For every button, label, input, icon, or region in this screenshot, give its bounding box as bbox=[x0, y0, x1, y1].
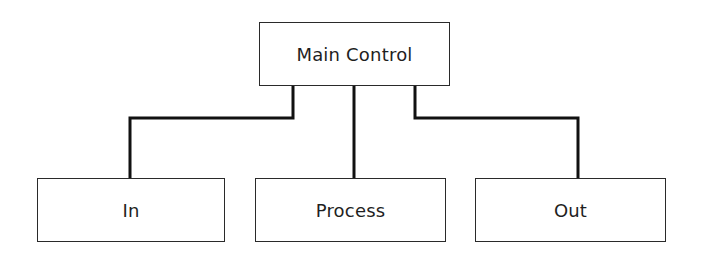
connector-main-to-out bbox=[415, 86, 578, 178]
node-main-control-label: Main Control bbox=[296, 44, 412, 65]
node-process: Process bbox=[255, 178, 446, 242]
node-process-label: Process bbox=[316, 200, 386, 221]
node-in: In bbox=[37, 178, 225, 242]
connector-main-to-in bbox=[130, 86, 293, 178]
node-in-label: In bbox=[122, 200, 139, 221]
node-out-label: Out bbox=[554, 200, 587, 221]
node-out: Out bbox=[475, 178, 666, 242]
node-main-control: Main Control bbox=[259, 22, 450, 86]
